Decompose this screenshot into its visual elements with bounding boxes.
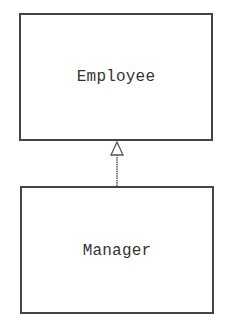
class-box-manager: Manager [20, 186, 214, 314]
class-name-manager: Manager [83, 242, 152, 260]
class-name-employee: Employee [77, 68, 155, 86]
hollow-triangle-arrowhead-icon [111, 142, 123, 155]
class-box-employee: Employee [19, 13, 213, 141]
